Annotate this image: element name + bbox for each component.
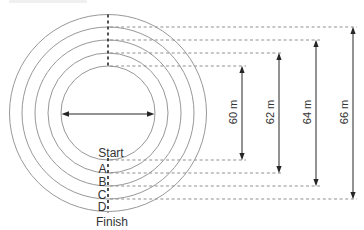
top-guides xyxy=(110,27,357,66)
inner-diameter-arrow xyxy=(62,111,155,116)
track-diagram: 60 m 62 m 64 m 66 m Start A B C D Finish xyxy=(0,0,364,230)
track-circles xyxy=(10,15,207,212)
dimension-label-60m: 60 m xyxy=(227,100,239,124)
bottom-guides xyxy=(110,160,357,199)
dimension-arrow-64m xyxy=(313,40,318,186)
arrow-head-down-icon xyxy=(313,179,318,186)
track-diagram-figure: 60 m 62 m 64 m 66 m Start A B C D Finish xyxy=(0,0,364,230)
dimension-label-62m: 62 m xyxy=(264,100,276,124)
arrow-head-right-icon xyxy=(147,111,155,116)
dimension-arrow-62m xyxy=(276,53,281,173)
arrow-head-down-icon xyxy=(276,166,281,173)
dimension-label-66m: 66 m xyxy=(338,100,350,124)
arrow-head-up-icon xyxy=(276,53,281,60)
track-circle-outer xyxy=(10,15,207,212)
dimension-arrow-60m xyxy=(239,66,244,160)
lane-label-a: A xyxy=(98,162,106,176)
lane-label-d: D xyxy=(98,200,107,214)
arrow-head-down-icon xyxy=(239,153,244,160)
lane-label-b: B xyxy=(98,175,106,189)
start-label: Start xyxy=(98,146,124,160)
dimension-label-64m: 64 m xyxy=(301,100,313,124)
dimension-arrow-66m xyxy=(350,27,355,199)
arrow-head-down-icon xyxy=(350,192,355,199)
finish-label: Finish xyxy=(96,215,128,229)
arrow-head-up-icon xyxy=(313,40,318,47)
arrow-head-up-icon xyxy=(239,66,244,73)
arrow-head-left-icon xyxy=(62,111,70,116)
arrow-head-up-icon xyxy=(350,27,355,34)
